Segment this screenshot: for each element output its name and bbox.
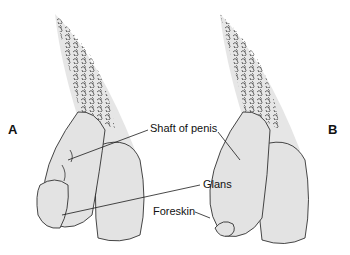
panel-a-drawing (37, 14, 144, 241)
glans-a (37, 180, 68, 228)
shaft-b (210, 112, 270, 237)
label-glans: Glans (203, 178, 232, 190)
leader-foreskin (195, 212, 210, 218)
anatomy-figure: A B Shaft of penis Glans Foreskin (0, 0, 350, 255)
label-shaft-of-penis: Shaft of penis (150, 122, 217, 134)
panel-b-drawing (210, 14, 309, 244)
panel-label-a: A (8, 122, 17, 137)
scrotum-a (95, 142, 144, 241)
panel-label-b: B (328, 122, 337, 137)
label-foreskin: Foreskin (153, 205, 195, 217)
